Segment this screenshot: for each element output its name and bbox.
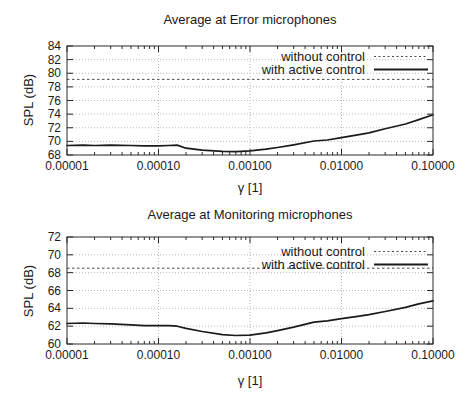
dashed-line-sample-icon — [373, 245, 429, 258]
y-tick-label: 70 — [48, 248, 62, 262]
error-mics-plot-area: 6870727476788082840.000010.000100.001000… — [0, 0, 476, 198]
dashed-line-sample-icon — [373, 50, 429, 63]
y-tick-label: 64 — [48, 301, 62, 315]
legend: without control with active control — [262, 245, 429, 271]
solid-line-sample-icon — [373, 63, 429, 76]
x-tick-label: 0.00001 — [45, 159, 89, 173]
y-axis-label: SPL (dB) — [21, 74, 36, 126]
x-tick-label: 0.00100 — [228, 159, 272, 173]
y-tick-label: 78 — [48, 80, 62, 94]
legend-item-with-active-control: with active control — [262, 258, 429, 271]
y-tick-label: 74 — [48, 107, 62, 121]
legend-item-with-active-control: with active control — [262, 63, 429, 76]
y-tick-label: 68 — [48, 266, 62, 280]
y-tick-label: 70 — [48, 134, 62, 148]
x-tick-label: 0.01000 — [320, 159, 364, 173]
x-tick-label: 0.01000 — [320, 348, 364, 362]
y-tick-label: 84 — [48, 39, 62, 53]
y-tick-label: 72 — [48, 230, 62, 244]
legend: without control with active control — [262, 50, 429, 76]
chart-title: Average at Monitoring microphones — [67, 207, 433, 223]
error-mics-chart: 6870727476788082840.000010.000100.001000… — [0, 0, 476, 198]
x-tick-label: 0.00010 — [137, 159, 181, 173]
x-tick-label: 0.10000 — [411, 348, 455, 362]
y-tick-label: 66 — [48, 284, 62, 298]
y-tick-label: 62 — [48, 319, 62, 333]
chart-title: Average at Error microphones — [67, 12, 433, 28]
y-tick-label: 82 — [48, 53, 62, 67]
x-tick-label: 0.00001 — [45, 348, 89, 362]
x-axis-label: γ [1] — [67, 373, 433, 389]
monitoring-mics-plot-area: 606264666870720.000010.000100.001000.010… — [0, 198, 476, 396]
x-tick-label: 0.00010 — [137, 348, 181, 362]
y-tick-label: 80 — [48, 66, 62, 80]
legend-label: with active control — [262, 257, 365, 272]
monitoring-mics-chart: 606264666870720.000010.000100.001000.010… — [0, 198, 476, 396]
x-axis-label: γ [1] — [67, 180, 433, 196]
x-tick-label: 0.00100 — [228, 348, 272, 362]
figure-average-spl-charts: 6870727476788082840.000010.000100.001000… — [0, 0, 476, 396]
x-tick-label: 0.10000 — [411, 159, 455, 173]
y-tick-label: 72 — [48, 121, 62, 135]
solid-line-sample-icon — [373, 258, 429, 271]
y-tick-label: 76 — [48, 94, 62, 108]
y-axis-label: SPL (dB) — [21, 265, 36, 317]
legend-label: with active control — [262, 62, 365, 77]
